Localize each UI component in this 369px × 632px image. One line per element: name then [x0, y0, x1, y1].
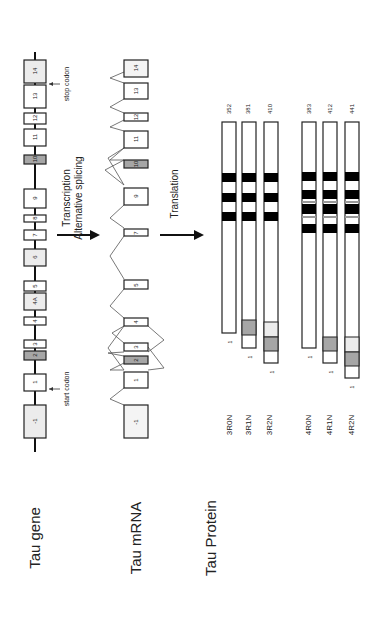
- repeat-domain: [345, 204, 359, 214]
- repeat-domain: [264, 173, 278, 182]
- n-insert-exon2: [242, 320, 256, 335]
- repeat-domain: [323, 204, 337, 214]
- isoform-4R1N: 412 1 4R1N: [323, 103, 337, 435]
- isoform-length: 412: [327, 103, 333, 114]
- mrna-exon-label: -1: [133, 419, 139, 425]
- repeat-domain: [323, 190, 337, 199]
- repeat-separator: [302, 216, 316, 218]
- splice-line: [110, 99, 124, 113]
- splice-line: [110, 120, 124, 131]
- splice-line: [148, 347, 164, 370]
- gene-exon-label: 4A: [32, 297, 38, 304]
- transcription-step: Transcription Alternative splicing: [57, 156, 100, 240]
- repeat-domain: [345, 224, 359, 233]
- repeat-separator: [323, 201, 337, 203]
- repeat-separator: [345, 216, 359, 218]
- start-codon-label: start codon: [63, 372, 70, 407]
- splice-line: [110, 205, 124, 228]
- protein-bar: [302, 122, 316, 348]
- tau-protein-label: Tau Protein: [202, 500, 219, 576]
- splice-line: [110, 72, 124, 83]
- isoform-name: 3R0N: [225, 415, 234, 436]
- repeat-domain: [222, 193, 236, 202]
- n-insert-exon3: [264, 322, 278, 337]
- n-insert-exon2: [264, 337, 278, 351]
- repeat-domain: [222, 212, 236, 221]
- isoform-name: 3R2N: [265, 415, 274, 436]
- isoform-4R0N: 383 1 4R0N: [302, 103, 316, 435]
- tau-splicing-diagram: 14 13 12 11 10 9 8 7 6 5 4A 4 3 2 1 -1 s…: [0, 0, 369, 632]
- stop-codon-arrowhead-icon: [49, 82, 53, 86]
- splice-line: [105, 160, 124, 185]
- isoform-3R1N: 381 1 3R1N: [242, 103, 256, 435]
- repeat-domain: [345, 190, 359, 199]
- splice-line: [108, 148, 124, 185]
- n-insert-exon3: [345, 337, 359, 352]
- gene-exon-label: 13: [32, 92, 38, 99]
- splice-line: [110, 388, 124, 405]
- splice-line: [108, 326, 124, 370]
- isoform-3R2N: 410 1 3R2N: [264, 103, 278, 435]
- arrowhead-icon: [90, 230, 100, 240]
- n-insert-exon2: [345, 352, 359, 366]
- protein-isoforms: 352 1 3R0N 381 1 3R1N 410: [222, 103, 359, 435]
- repeat-domain: [302, 172, 316, 181]
- gene-exon-label: 12: [32, 114, 38, 121]
- repeat-domain: [302, 204, 316, 214]
- stop-codon-label: stop codon: [63, 67, 71, 101]
- translation-step: Translation: [160, 169, 204, 240]
- protein-bar: [242, 122, 256, 348]
- mrna-exon-label: 11: [133, 135, 139, 142]
- start-residue: 1: [269, 370, 275, 373]
- isoform-length: 383: [306, 103, 312, 114]
- start-residue: 1: [247, 355, 253, 358]
- repeat-domain: [264, 193, 278, 202]
- splice-line: [148, 326, 164, 352]
- repeat-domain: [302, 190, 316, 199]
- isoform-name: 3R1N: [244, 415, 253, 436]
- splice-line: [108, 352, 124, 356]
- alternative-splicing-label: Alternative splicing: [73, 156, 84, 239]
- isoform-length: 441: [349, 103, 355, 114]
- protein-bar: [323, 122, 337, 363]
- start-residue: 1: [307, 355, 313, 358]
- start-codon-arrowhead-icon: [49, 387, 53, 391]
- gene-exon-label: 11: [32, 133, 38, 140]
- isoform-length: 410: [267, 103, 273, 114]
- isoform-name: 4R2N: [347, 415, 356, 436]
- repeat-domain: [242, 212, 256, 221]
- transcription-label: Transcription: [61, 169, 72, 226]
- mrna-exon-label: 14: [133, 64, 139, 71]
- tau-gene-label: Tau gene: [26, 507, 43, 569]
- tau-mrna-label: Tau mRNA: [127, 502, 144, 575]
- protein-bar: [222, 122, 236, 333]
- arrowhead-icon: [194, 230, 204, 240]
- isoform-length: 381: [245, 103, 251, 114]
- isoform-length: 352: [226, 103, 232, 114]
- repeat-domain: [242, 173, 256, 182]
- mrna-exon-label: 13: [133, 87, 139, 94]
- isoform-3R0N: 352 1 3R0N: [222, 103, 236, 435]
- repeat-separator: [345, 201, 359, 203]
- gene-exon-label: 10: [32, 155, 38, 162]
- repeat-domain: [242, 193, 256, 202]
- n-insert-exon2: [323, 337, 337, 351]
- translation-label: Translation: [169, 169, 180, 218]
- splice-line: [110, 148, 124, 160]
- gene-exon-label: 14: [32, 67, 38, 74]
- repeat-domain: [345, 172, 359, 181]
- gene-exon-label: -1: [32, 418, 38, 424]
- mrna-row: 14 13 12 11 10 9 7 5 4 3 2 1 -1: [105, 60, 164, 438]
- repeat-domain: [302, 224, 316, 233]
- mrna-exon-label: 12: [133, 113, 139, 120]
- gene-row: 14 13 12 11 10 9 8 7 6 5 4A 4 3 2 1 -1 s…: [24, 52, 71, 452]
- repeat-domain: [323, 172, 337, 181]
- repeat-separator: [302, 201, 316, 203]
- isoform-name: 4R0N: [304, 415, 313, 436]
- repeat-domain: [264, 212, 278, 221]
- repeat-domain: [222, 173, 236, 182]
- start-residue: 1: [227, 340, 233, 343]
- isoform-4R2N: 441 1 4R2N: [345, 103, 359, 435]
- splice-line: [110, 236, 124, 279]
- start-residue: 1: [328, 370, 334, 373]
